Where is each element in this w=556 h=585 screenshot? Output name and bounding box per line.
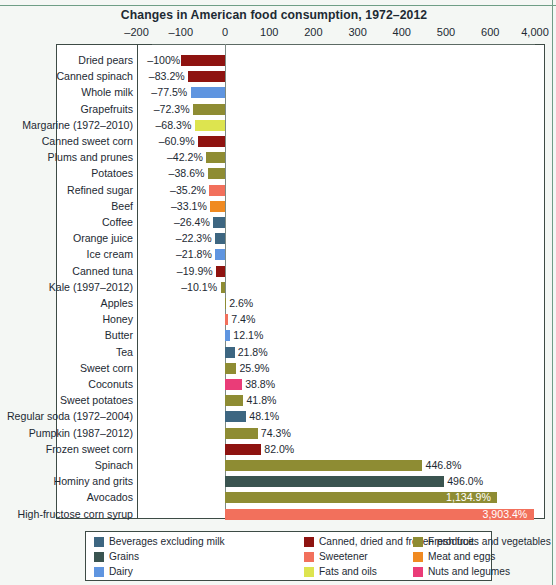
bar bbox=[221, 282, 225, 293]
x-tick-label: 200 bbox=[304, 26, 322, 38]
bar bbox=[216, 266, 225, 277]
bar bbox=[225, 395, 243, 406]
bar bbox=[188, 71, 225, 82]
x-tick-label: –100 bbox=[169, 26, 193, 38]
x-tick-label: 4,000 bbox=[521, 26, 549, 38]
legend-label: Beverages excluding milk bbox=[109, 536, 225, 548]
bar bbox=[208, 168, 225, 179]
legend-label: Nuts and legumes bbox=[428, 566, 510, 578]
legend-swatch bbox=[413, 567, 423, 577]
legend-swatch bbox=[94, 537, 104, 547]
x-tick-label: 400 bbox=[393, 26, 411, 38]
bar bbox=[225, 411, 246, 422]
axis-line bbox=[152, 44, 535, 45]
legend-swatch bbox=[304, 552, 314, 562]
bar bbox=[215, 249, 225, 260]
chart-row: High-fructose corn syrup3,903.4% bbox=[0, 505, 556, 524]
bar-value-label: 3,903.4% bbox=[483, 505, 528, 524]
bar bbox=[209, 185, 225, 196]
bar bbox=[193, 104, 225, 115]
legend-swatch bbox=[94, 567, 104, 577]
x-tick-label: 300 bbox=[348, 26, 366, 38]
bar bbox=[225, 444, 261, 455]
bar bbox=[195, 120, 225, 131]
bar bbox=[191, 87, 225, 98]
legend-label: Grains bbox=[109, 551, 139, 563]
legend: Beverages excluding milkCanned, dried an… bbox=[85, 531, 492, 581]
chart-title: Changes in American food consumption, 19… bbox=[0, 8, 548, 22]
bar bbox=[225, 314, 228, 325]
legend-label: Sweetener bbox=[319, 551, 368, 563]
bar bbox=[215, 233, 225, 244]
bar bbox=[225, 460, 422, 471]
bar bbox=[198, 136, 225, 147]
legend-label: Meat and eggs bbox=[428, 551, 495, 563]
legend-swatch bbox=[304, 567, 314, 577]
x-tick-label: –200 bbox=[124, 26, 148, 38]
bar bbox=[225, 363, 236, 374]
bar bbox=[181, 55, 225, 66]
x-tick-label: 500 bbox=[437, 26, 455, 38]
bar bbox=[225, 330, 230, 341]
legend-label: Fresh fruits and vegetables bbox=[428, 536, 551, 548]
bar bbox=[206, 152, 225, 163]
bar bbox=[213, 217, 225, 228]
bar bbox=[210, 201, 225, 212]
bar bbox=[225, 347, 235, 358]
bar bbox=[225, 428, 258, 439]
page-rule-top bbox=[0, 5, 556, 6]
x-tick-label: 0 bbox=[222, 26, 228, 38]
legend-swatch bbox=[304, 537, 314, 547]
x-tick-label: 600 bbox=[481, 26, 499, 38]
legend-swatch bbox=[413, 552, 423, 562]
legend-swatch bbox=[413, 537, 423, 547]
bar bbox=[225, 298, 226, 309]
legend-label: Fats and oils bbox=[319, 566, 377, 578]
category-label: High-fructose corn syrup bbox=[0, 505, 133, 524]
legend-label: Dairy bbox=[109, 566, 133, 578]
bar bbox=[225, 476, 444, 487]
chart-page: Changes in American food consumption, 19… bbox=[0, 0, 556, 585]
bar bbox=[225, 379, 242, 390]
legend-swatch bbox=[94, 552, 104, 562]
x-tick-label: 100 bbox=[260, 26, 278, 38]
